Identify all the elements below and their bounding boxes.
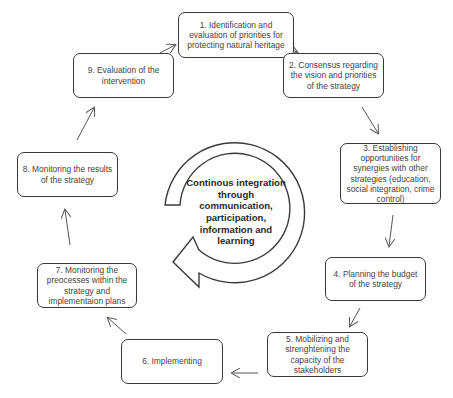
- step-4-box: 4. Planning the budget of the strategy: [325, 257, 426, 301]
- step-8-box: 8. Monitoring the results of the strateg…: [17, 152, 118, 197]
- arrow-8-to-9: [77, 108, 94, 140]
- center-label-text: Continous integration through communicat…: [180, 177, 292, 247]
- arrow-6-to-7: [108, 318, 126, 334]
- step-9-label: 9. Evaluation of the intervention: [78, 65, 169, 85]
- arrow-4-to-5: [350, 308, 360, 326]
- arrow-9-to-1: [160, 45, 175, 53]
- center-label: Continous integration through communicat…: [180, 170, 292, 254]
- arrow-2-to-3: [362, 107, 378, 133]
- step-3-label: 3. Establishing opportunities for synerg…: [345, 143, 436, 204]
- step-6-label: 6. Implementing: [142, 356, 202, 366]
- step-8-label: 8. Monitoring the results of the strateg…: [22, 164, 113, 184]
- step-6-box: 6. Implementing: [121, 339, 223, 384]
- arrow-3-to-4: [389, 215, 393, 246]
- step-7-label: 7. Monitoring the preocesses within the …: [42, 265, 132, 306]
- step-4-label: 4. Planning the budget of the strategy: [330, 269, 421, 289]
- step-5-label: 5. Mobilizing and strenghtening the capa…: [272, 334, 363, 375]
- arrow-7-to-8: [65, 210, 70, 245]
- step-3-box: 3. Establishing opportunities for synerg…: [340, 143, 441, 204]
- step-1-box: 1. Identification and evaluation of prio…: [178, 12, 294, 58]
- step-2-label: 2. Consensus regarding the vision and pr…: [288, 60, 379, 91]
- step-1-label: 1. Identification and evaluation of prio…: [183, 20, 289, 51]
- step-5-box: 5. Mobilizing and strenghtening the capa…: [267, 332, 368, 377]
- step-9-box: 9. Evaluation of the intervention: [73, 53, 174, 98]
- step-7-box: 7. Monitoring the preocesses within the …: [37, 263, 137, 308]
- step-2-box: 2. Consensus regarding the vision and pr…: [283, 53, 384, 98]
